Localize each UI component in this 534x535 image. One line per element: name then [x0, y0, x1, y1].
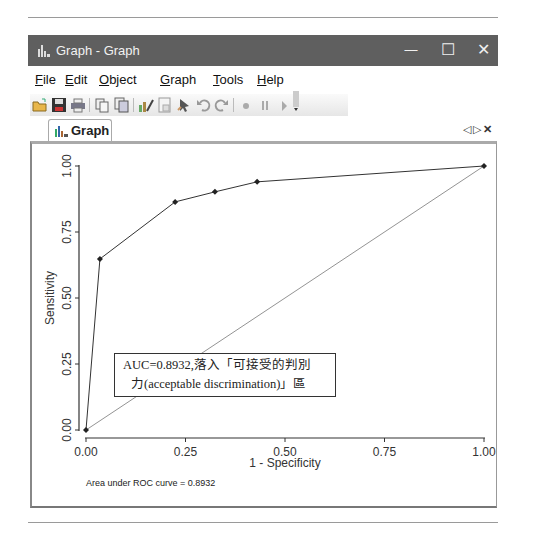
minimize-button[interactable]: — — [396, 39, 426, 61]
graph-tab-icon — [55, 125, 69, 137]
toolbar-separator — [233, 98, 234, 112]
pause-icon[interactable] — [257, 97, 273, 113]
y-tick-label: 0.75 — [60, 220, 74, 244]
top-divider — [28, 17, 498, 18]
document-tabs: Graph ◁▷✕ — [28, 119, 498, 141]
print-icon[interactable] — [70, 97, 86, 113]
open-icon[interactable] — [32, 97, 48, 113]
data-point-marker — [254, 179, 260, 185]
y-axis-label: Sensitivity — [43, 271, 57, 325]
save-icon[interactable] — [51, 97, 67, 113]
y-tick-label: 0.50 — [60, 286, 74, 310]
redo-icon[interactable] — [214, 97, 230, 113]
y-tick-label: 1.00 — [60, 154, 74, 178]
toolbar-separator — [133, 98, 134, 112]
tab-label: Graph — [71, 123, 109, 138]
menu-help[interactable]: Help — [257, 72, 284, 87]
copy-icon[interactable] — [94, 97, 110, 113]
graph-window: Graph - Graph — ☐ ✕ File Edit Object Gra… — [28, 35, 498, 505]
annotation-line-1: AUC=0.8932,落入「可接受的判別 — [123, 356, 311, 375]
bottom-divider — [28, 522, 498, 523]
toolbar-separator — [89, 98, 90, 112]
x-axis-label: 1 - Specificity — [249, 456, 320, 470]
tab-prev-button[interactable]: ◁ — [463, 123, 473, 135]
y-tick-label: 0.00 — [60, 418, 74, 442]
x-tick-label: 0.25 — [174, 445, 198, 459]
pointer-icon[interactable] — [176, 97, 192, 113]
title-bar[interactable]: Graph - Graph — ☐ ✕ — [28, 35, 498, 66]
tab-next-button[interactable]: ▷ — [473, 123, 483, 135]
graph-editor-icon[interactable] — [138, 97, 154, 113]
graph-panel: 0.000.250.500.751.000.000.250.500.751.00… — [30, 141, 497, 508]
menu-file[interactable]: File — [35, 72, 56, 87]
maximize-button[interactable]: ☐ — [433, 39, 463, 61]
tab-graph[interactable]: Graph — [48, 119, 112, 142]
toolbar — [30, 94, 348, 116]
properties-icon[interactable] — [157, 97, 173, 113]
y-tick-label: 0.25 — [60, 352, 74, 376]
menu-object[interactable]: Object — [99, 72, 137, 87]
undo-icon[interactable] — [195, 97, 211, 113]
close-button[interactable]: ✕ — [468, 39, 498, 61]
data-point-marker — [83, 427, 89, 433]
toolbar-options-icon[interactable] — [292, 91, 300, 113]
menu-graph[interactable]: Graph — [160, 72, 196, 87]
roc-chart: 0.000.250.500.751.000.000.250.500.751.00… — [32, 144, 496, 504]
data-point-marker — [212, 189, 218, 195]
menu-tools[interactable]: Tools — [213, 72, 243, 87]
tab-navigation: ◁▷✕ — [463, 123, 494, 136]
play-icon[interactable] — [276, 97, 292, 113]
window-title: Graph - Graph — [56, 43, 140, 58]
auc-annotation: AUC=0.8932,落入「可接受的判別 力(acceptable discri… — [114, 353, 336, 397]
record-icon[interactable] — [238, 97, 254, 113]
auc-note: Area under ROC curve = 0.8932 — [86, 478, 215, 488]
data-point-marker — [481, 163, 487, 169]
x-tick-label: 1.00 — [472, 445, 496, 459]
annotation-line-2: 力(acceptable discrimination)」區 — [131, 375, 306, 394]
copy-graph-icon[interactable] — [113, 97, 129, 113]
x-tick-label: 0.00 — [74, 445, 98, 459]
x-tick-label: 0.75 — [373, 445, 397, 459]
tab-close-button[interactable]: ✕ — [483, 123, 494, 135]
app-graph-icon — [38, 44, 52, 60]
menu-edit[interactable]: Edit — [65, 72, 87, 87]
